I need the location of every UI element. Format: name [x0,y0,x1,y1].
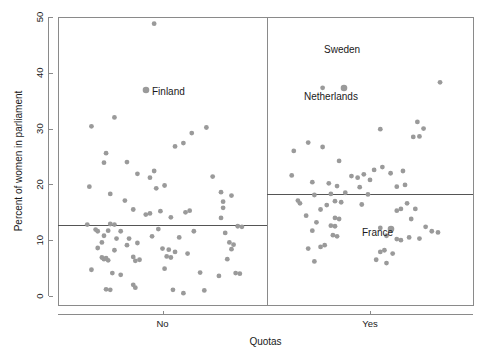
data-point-no-60 [229,247,234,252]
data-point-no-83 [171,287,176,292]
y-axis-tick-label-20: 20 [34,179,45,190]
data-point-no-26 [187,208,192,213]
data-point-yes-23 [357,185,362,190]
data-point-yes-7 [306,140,311,145]
data-point-no-18 [219,190,224,195]
data-point-yes-22 [335,184,340,189]
data-point-yes-38 [394,208,399,213]
data-point-no-10 [102,160,107,165]
data-point-yes-40 [413,207,418,212]
data-point-yes-36 [405,201,410,206]
data-point-yes-67 [374,257,379,262]
data-point-no-55 [112,248,117,253]
data-point-yes-6 [417,134,422,139]
chart-figure: 01020304050Percent of women in parliamen… [0,0,490,350]
data-point-yes-53 [331,233,336,238]
panel-border-yes [268,18,474,306]
data-point-yes-4 [378,127,383,132]
data-point-yes-33 [339,200,344,205]
data-point-no-80 [108,287,113,292]
data-point-yes-66 [312,259,317,264]
data-point-yes-17 [355,175,360,180]
data-point-yes-58 [399,238,404,243]
data-point-no-47 [150,234,155,239]
data-point-no-22 [122,198,127,203]
data-point-no-13 [135,171,140,176]
data-point-no-32 [85,222,90,227]
data-point-no-29 [158,209,163,214]
data-point-yes-14 [401,169,406,174]
data-point-no-9 [125,160,130,165]
data-point-no-50 [125,243,130,248]
y-axis-title: Percent of women in parliament [13,90,24,231]
data-point-no-7 [181,141,186,146]
data-point-yes-28 [312,193,317,198]
y-axis-tick-label-50: 50 [34,12,45,23]
data-point-no-28 [148,211,153,216]
data-point-no-14 [148,175,153,180]
data-point-no-42 [191,229,196,234]
data-point-yes-62 [306,246,311,251]
data-point-yes-10 [337,159,342,164]
data-point-yes-65 [390,251,395,256]
data-point-no-21 [221,199,226,204]
y-axis-tick-label-40: 40 [34,68,45,79]
data-point-no-27 [143,212,148,217]
data-point-no-38 [95,229,100,234]
data-point-yes-50 [310,228,315,233]
data-point-yes-41 [304,213,309,218]
data-point-yes-3 [421,126,426,131]
data-point-no-67 [137,257,142,262]
data-point-no-12 [152,169,157,174]
data-point-no-69 [168,255,173,260]
data-point-yes-60 [322,243,327,248]
data-point-yes-12 [372,167,377,172]
data-point-no-15 [87,184,92,189]
data-point-yes-43 [337,217,342,222]
data-point-yes-59 [417,236,422,241]
data-point-no-6 [173,144,178,149]
data-point-no-70 [225,257,230,262]
data-point-yes-57 [394,237,399,242]
data-point-no-49 [99,240,104,245]
data-point-no-40 [118,229,123,234]
data-point-yes-61 [318,245,323,250]
data-point-no-46 [127,236,132,241]
data-point-yes-49 [423,224,428,229]
data-point-no-66 [133,258,138,263]
data-point-yes-39 [399,207,404,212]
data-point-yes-56 [407,235,412,240]
data-point-no-45 [114,236,119,241]
data-point-finland [143,87,150,94]
data-point-no-72 [110,271,115,276]
x-axis-tick-label-yes: Yes [362,318,378,329]
annotation-label-finland: Finland [152,86,185,97]
data-point-no-31 [219,215,224,220]
annotation-label-netherlands: Netherlands [304,91,358,102]
data-point-no-71 [89,267,94,272]
data-point-no-68 [164,254,169,259]
data-point-yes-24 [394,184,399,189]
data-point-no-11 [210,174,215,179]
data-point-yes-44 [314,220,319,225]
data-point-no-84 [181,291,186,296]
data-point-yes-25 [403,183,408,188]
data-point-yes-18 [361,172,366,177]
data-point-yes-31 [298,201,303,206]
data-point-no-74 [162,266,167,271]
data-point-yes-27 [343,190,348,195]
data-point-no-56 [160,246,165,251]
data-point-no-20 [108,191,113,196]
data-point-no-73 [118,272,123,277]
data-point-yes-13 [388,171,393,176]
data-point-no-4 [204,125,209,130]
data-point-no-43 [223,231,228,236]
data-point-no-0 [152,21,157,26]
data-point-no-24 [131,207,136,212]
data-point-yes-20 [310,180,315,185]
data-point-no-3 [89,124,94,129]
data-point-yes-29 [366,192,371,197]
annotation-label-sweden: Sweden [324,44,360,55]
data-point-no-78 [237,271,242,276]
data-point-no-85 [202,288,207,293]
